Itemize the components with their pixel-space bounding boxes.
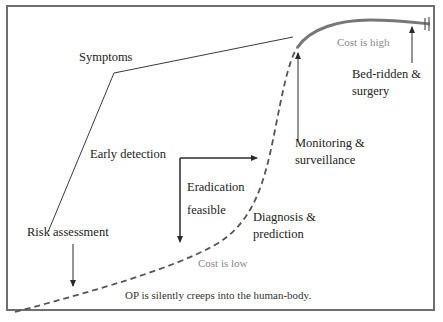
early-detection-bracket [180, 158, 255, 240]
label-surgery: surgery [352, 82, 389, 101]
label-symptoms: Symptoms [79, 48, 133, 67]
label-cost-low: Cost is low [198, 254, 248, 273]
label-feasible: feasible [187, 201, 226, 220]
progression-curve-dashed [15, 48, 297, 312]
label-cost-high: Cost is high [337, 33, 390, 52]
diagram-caption: OP is silently creeps into the human-bod… [125, 286, 311, 305]
label-risk-assessment: Risk assessment [27, 223, 109, 242]
label-surveillance: surveillance [295, 151, 355, 170]
label-early-detection: Early detection [90, 145, 166, 164]
label-eradication: Eradication [187, 178, 245, 197]
label-prediction: prediction [253, 225, 304, 244]
